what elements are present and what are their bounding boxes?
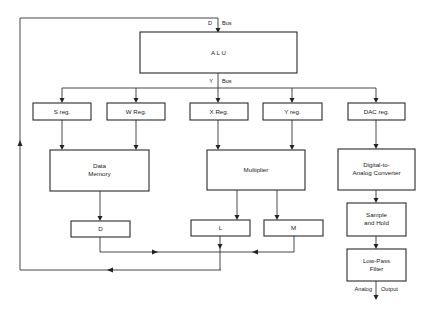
output-arrowhead (374, 295, 379, 300)
x-reg-block: X Reg. (190, 103, 248, 120)
x-reg-arrowhead (216, 98, 221, 103)
multiplier-block: Multiplier (207, 150, 305, 190)
m-label: M (291, 224, 296, 231)
l-arrowhead (235, 215, 240, 220)
d-bus-label-right: Bus (222, 20, 232, 26)
data-memory-label-line1: Data (93, 162, 107, 169)
d-block: D (71, 221, 130, 237)
low-pass-label-line2: Filter (370, 265, 384, 272)
l-label: L (219, 224, 223, 231)
sample-hold-block: Sample and Hold (347, 203, 406, 236)
data-memory-block: Data Memory (50, 150, 149, 191)
alu-label: A L U (211, 49, 226, 56)
y-reg-block: Y reg. (263, 103, 322, 120)
y-reg-arrowhead (290, 98, 295, 103)
sample-hold-label-line2: and Hold (364, 219, 389, 226)
sh-arrowhead (374, 198, 379, 203)
feedback-left-arrowhead (107, 268, 113, 273)
low-pass-filter-block: Low-Pass Filter (347, 249, 406, 281)
dac-block: Digital-to- Analog Converter (338, 149, 415, 190)
d-bus-label-left: D (208, 20, 212, 26)
w-reg-block: W Reg. (107, 103, 165, 120)
l-down-arrowhead (218, 244, 223, 249)
w-reg-label: W Reg. (126, 108, 147, 115)
d-out-wire (100, 236, 294, 252)
l-block: L (191, 220, 250, 236)
dac-reg-arrowhead (374, 98, 379, 103)
mult-x-arrowhead (216, 145, 221, 150)
m-arrowhead (275, 215, 280, 220)
low-pass-label-line1: Low-Pass (363, 257, 390, 264)
merge-m-arrowhead (252, 250, 258, 255)
analog-output-label-right: Output (381, 286, 398, 292)
mult-y-arrowhead (290, 145, 295, 150)
dac-reg-block: DAC reg. (348, 103, 405, 120)
dac-label-line1: Digital-to- (363, 161, 389, 168)
y-reg-label: Y reg. (284, 108, 301, 115)
s-reg-block: S reg. (33, 103, 91, 120)
d-arrowhead (98, 216, 103, 221)
y-bus-label-right: Bus (222, 78, 232, 84)
dac-arrowhead (374, 144, 379, 149)
alu-block: A L U (140, 32, 297, 73)
analog-output-label-left: Analog (355, 286, 372, 292)
dac-label-line2: Analog Converter (352, 169, 400, 176)
sample-hold-label-line1: Sample (366, 211, 388, 218)
d-label: D (98, 225, 103, 232)
y-bus-label-left: Y (209, 78, 213, 84)
s-reg-label: S reg. (54, 108, 71, 115)
feedback-up-arrowhead (18, 140, 23, 146)
mem-w-arrowhead (134, 145, 139, 150)
m-block: M (264, 220, 323, 236)
merge-d-arrowhead (152, 250, 158, 255)
multiplier-label: Multiplier (244, 166, 269, 173)
s-reg-arrowhead (60, 98, 65, 103)
x-reg-label: X Reg. (210, 108, 229, 115)
data-memory-label-line2: Memory (88, 170, 111, 177)
mem-s-arrowhead (60, 145, 65, 150)
block-diagram: D Bus Y Bus Analog Output A L U S reg. W… (0, 0, 433, 309)
dac-reg-label: DAC reg. (364, 108, 390, 115)
w-reg-arrowhead (134, 98, 139, 103)
lpf-arrowhead (374, 244, 379, 249)
